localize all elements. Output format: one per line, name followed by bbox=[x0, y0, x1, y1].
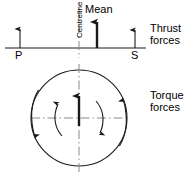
port-label: P bbox=[15, 49, 22, 61]
thrust-forces-label: Thrust forces bbox=[150, 22, 181, 46]
thrust-forces-label-line2: forces bbox=[150, 34, 181, 46]
right-tangential-arrow bbox=[120, 100, 127, 146]
torque-forces-label: Torque forces bbox=[150, 89, 184, 113]
centreline-label: Centreline bbox=[74, 2, 86, 38]
starboard-label: S bbox=[131, 49, 138, 61]
torque-forces-label-line1: Torque bbox=[150, 89, 184, 101]
propeller-forces-diagram: P S Mean Centreline Thrust forces Torque… bbox=[0, 0, 196, 181]
thrust-forces-label-line1: Thrust bbox=[150, 22, 181, 34]
inner-right-curved-arrow bbox=[96, 101, 103, 133]
torque-forces-label-line2: forces bbox=[150, 101, 184, 113]
inner-left-curved-arrow bbox=[55, 104, 62, 136]
left-tangential-arrow bbox=[32, 90, 39, 136]
torque-diagram-group bbox=[31, 64, 128, 174]
mean-label: Mean bbox=[85, 3, 113, 15]
